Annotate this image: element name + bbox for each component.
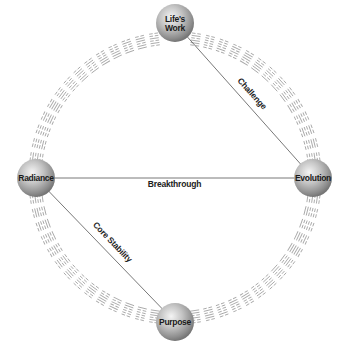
hexagram-symbol: [288, 243, 303, 257]
hexagram-symbol: [251, 283, 265, 298]
hexagram-symbol: [109, 44, 122, 59]
connector-line: [175, 23, 313, 178]
hexagram-symbol: [84, 283, 98, 298]
hexagram-symbol: [271, 265, 286, 280]
hexagram-symbol: [228, 297, 241, 312]
hexagram-symbol: [203, 307, 215, 321]
edge-radiance-evolution: Breakthrough: [36, 178, 313, 189]
hexagram-symbol: [109, 297, 122, 312]
hexagram-symbol: [149, 33, 160, 46]
hexagram-symbol: [280, 254, 295, 268]
hexagram-symbol: [47, 99, 62, 113]
hexagram-symbol: [64, 265, 79, 280]
hexagram-symbol: [96, 291, 110, 306]
hexagram-symbol: [41, 231, 56, 244]
hexagram-symbol: [304, 206, 318, 218]
hexagram-symbol: [64, 77, 79, 92]
hexagram-symbol: [294, 112, 309, 125]
hexagram-symbol: [32, 206, 46, 218]
hexagram-symbol: [300, 125, 314, 138]
hexagram-symbol: [36, 125, 50, 138]
hexagram-symbol: [96, 50, 110, 65]
hexagram-symbol: [280, 87, 295, 101]
nodes-layer: Life'sWorkRadianceEvolutionPurpose: [17, 4, 332, 341]
hexagram-symbol: [288, 99, 303, 113]
edge-label: Breakthrough: [148, 179, 201, 189]
hexagram-symbol: [135, 35, 147, 49]
hexagram-symbol: [251, 58, 265, 73]
hexagram-symbol: [190, 33, 201, 46]
hexagram-symbol: [47, 243, 62, 257]
node-purpose: Purpose: [156, 303, 194, 341]
hexagram-symbol: [55, 254, 70, 268]
hexagram-symbol: [228, 44, 241, 59]
hexagram-symbol: [122, 39, 135, 53]
hexagram-symbol: [216, 303, 229, 317]
hexagram-symbol: [32, 138, 46, 150]
node-lifes-work: Life'sWork: [156, 4, 194, 42]
hexagram-symbol: [55, 87, 70, 101]
hexagram-symbol: [262, 274, 277, 289]
hexagram-symbol: [203, 35, 215, 49]
hexagram-symbol: [294, 231, 309, 244]
hexagram-symbol: [262, 67, 277, 82]
edge-lifes-work-evolution: Challenge: [175, 23, 313, 178]
hexagram-symbol: [74, 67, 89, 82]
node-label: Radiance: [18, 173, 54, 183]
hexagram-symbol: [84, 58, 98, 73]
hexagram-symbol: [304, 138, 318, 150]
hexagram-symbol: [122, 303, 135, 317]
hexagram-symbol: [216, 39, 229, 53]
node-evolution: Evolution: [294, 159, 332, 197]
hexagram-symbol: [36, 219, 50, 232]
diagram-canvas: ChallengeBreakthroughCore Stability Life…: [0, 0, 352, 360]
hexagram-symbol: [240, 291, 254, 306]
hexagram-symbol: [135, 307, 147, 321]
edge-label: Challenge: [236, 76, 270, 112]
hexagram-symbol: [74, 274, 89, 289]
hexagram-symbol: [271, 77, 286, 92]
node-label: Purpose: [159, 317, 191, 327]
node-label: Work: [165, 23, 185, 33]
hexagram-symbol: [300, 219, 314, 232]
hexagram-symbol: [41, 112, 56, 125]
node-label: Evolution: [295, 173, 331, 183]
node-radiance: Radiance: [17, 159, 55, 197]
hexagram-symbol: [240, 50, 254, 65]
